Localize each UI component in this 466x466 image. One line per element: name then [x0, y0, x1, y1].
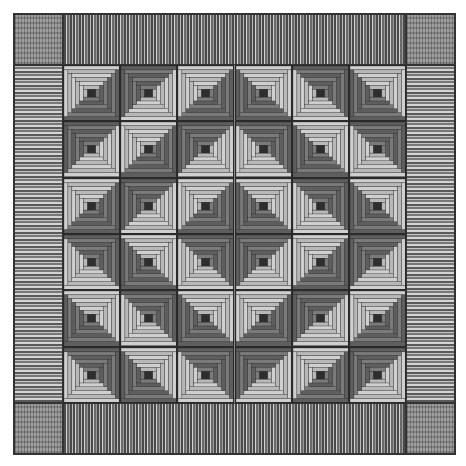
log-cabin-block	[177, 347, 234, 403]
log-cabin-block	[349, 290, 406, 346]
log-cabin-block	[120, 290, 177, 346]
log-cabin-block	[120, 347, 177, 403]
border-left-striped	[14, 65, 63, 403]
corner-square-top-left	[14, 14, 63, 65]
log-cabin-block	[63, 65, 120, 121]
border-right-striped	[406, 65, 455, 403]
border-top-striped	[63, 14, 406, 65]
log-cabin-block	[292, 65, 349, 121]
log-cabin-block	[177, 178, 234, 234]
log-cabin-block	[63, 234, 120, 290]
log-cabin-block	[177, 234, 234, 290]
log-cabin-block	[63, 290, 120, 346]
log-cabin-block	[292, 121, 349, 177]
log-cabin-block	[292, 178, 349, 234]
log-cabin-block	[235, 121, 292, 177]
log-cabin-block	[177, 121, 234, 177]
corner-square-bottom-right	[406, 403, 455, 454]
corner-square-bottom-left	[14, 403, 63, 454]
log-cabin-block	[349, 347, 406, 403]
log-cabin-block	[63, 178, 120, 234]
border-bottom-striped	[63, 403, 406, 454]
quilt	[13, 13, 456, 455]
log-cabin-block	[177, 65, 234, 121]
log-cabin-block	[235, 290, 292, 346]
log-cabin-block	[292, 234, 349, 290]
log-cabin-block	[120, 178, 177, 234]
log-cabin-block	[349, 121, 406, 177]
log-cabin-block	[235, 65, 292, 121]
log-cabin-block	[235, 347, 292, 403]
log-cabin-block	[235, 234, 292, 290]
log-cabin-block	[120, 65, 177, 121]
log-cabin-block	[292, 290, 349, 346]
log-cabin-block	[63, 347, 120, 403]
log-cabin-block	[177, 290, 234, 346]
log-cabin-block	[349, 178, 406, 234]
corner-square-top-right	[406, 14, 455, 65]
log-cabin-block	[235, 178, 292, 234]
log-cabin-block	[120, 234, 177, 290]
log-cabin-block	[120, 121, 177, 177]
log-cabin-block	[349, 234, 406, 290]
log-cabin-block	[349, 65, 406, 121]
log-cabin-block	[292, 347, 349, 403]
log-cabin-block	[63, 121, 120, 177]
